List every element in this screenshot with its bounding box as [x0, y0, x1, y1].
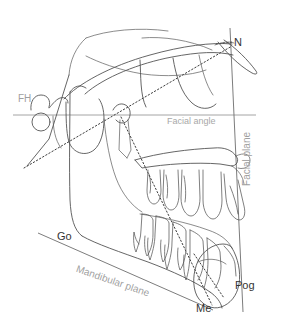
label-menton: Me	[196, 303, 211, 314]
dotted-occlusal-line	[121, 117, 212, 305]
pterygoid-loop	[113, 104, 130, 123]
midface-group	[53, 55, 250, 184]
tooth-lower-incisor-2	[224, 246, 236, 276]
reference-lines-group	[13, 28, 256, 312]
tooth-upper-canine	[203, 170, 222, 219]
tooth-lower-molar-2-crown	[156, 216, 169, 262]
label-facial-angle: Facial angle	[167, 117, 216, 126]
cranial-vault-posterior	[69, 38, 86, 75]
label-facial-plane-text: Facial plane	[242, 132, 252, 186]
cranial-vault-curve	[86, 29, 168, 38]
label-gonion: Go	[57, 231, 72, 242]
tooth-upper-molar-2	[163, 170, 179, 210]
orbital-rim-outline	[173, 58, 216, 108]
menton-curve	[210, 292, 222, 308]
pterygomaxillary-line	[119, 120, 127, 158]
alveolar-crest-maxilla	[135, 160, 232, 168]
porion-circle	[32, 113, 50, 131]
tooth-lower-canine	[184, 230, 190, 280]
cranial-floor-curve	[86, 56, 206, 76]
maxillary-teeth-group	[147, 170, 245, 220]
pterygomaxillary-line-2	[127, 120, 131, 158]
tooth-lower-incisor	[204, 238, 208, 288]
tooth-upper-molar-1-root	[149, 174, 151, 193]
zygomatic-outline	[66, 99, 104, 153]
mandibular-teeth-group	[134, 214, 236, 288]
label-frankfort-horizontal: FH	[18, 94, 31, 104]
label-pogonion: Pog	[235, 280, 255, 291]
mandibular-plane-line	[38, 233, 213, 310]
maxillary-tuberosity-line	[53, 116, 61, 148]
orbital-floor-line	[199, 55, 213, 95]
cranium-group	[27, 29, 233, 166]
tooth-upper-molar-2-root	[166, 175, 168, 198]
label-nasion: N	[234, 37, 242, 48]
posterior-cranial-line	[27, 75, 69, 166]
orbital-posterior-wall	[140, 60, 146, 107]
tooth-upper-premolar-root	[184, 176, 186, 202]
tooth-upper-incisor-root	[230, 186, 238, 214]
ramus-posterior-border	[70, 92, 82, 236]
mandible-lower-border	[82, 236, 210, 292]
symphysis-inner-line	[198, 259, 226, 264]
label-facial-plane: Facial plane	[242, 78, 252, 132]
tooth-lower-molar-1	[134, 214, 142, 252]
ramus-anterior-border	[104, 119, 142, 212]
cephalometric-figure: FH N Go Me Pog Facial angle Facial plane…	[0, 0, 292, 336]
tooth-lower-premolar-crown	[173, 222, 186, 270]
construction-lines-group	[24, 42, 233, 305]
